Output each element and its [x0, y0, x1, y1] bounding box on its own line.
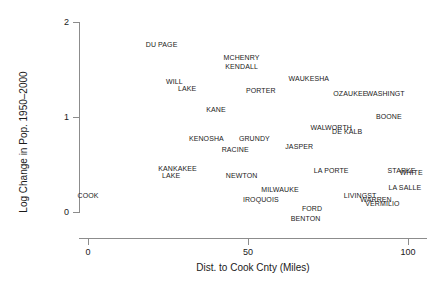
data-point-label: GRUNDY — [239, 135, 270, 143]
y-tick-label-1: 1 — [47, 112, 69, 122]
data-point-label: KANE — [206, 106, 225, 114]
y-tick-mark-0 — [73, 212, 79, 213]
x-tick-mark-50 — [248, 239, 249, 245]
data-point-label: VERMILIO — [365, 200, 399, 208]
y-axis-title: Log Change in Pop. 1950–2000 — [16, 0, 32, 284]
y-tick-label-0: 0 — [47, 207, 69, 217]
x-axis-title: Dist. to Cook Cnty (Miles) — [79, 262, 427, 273]
x-axis-line — [79, 238, 427, 239]
data-point-label: LAKE — [178, 85, 196, 93]
data-point-label: IROQUOIS — [243, 196, 279, 204]
x-tick-mark-0 — [88, 239, 89, 245]
x-tick-label-50: 50 — [228, 247, 268, 257]
data-point-label: BOONE — [376, 113, 402, 121]
y-tick-mark-2 — [73, 22, 79, 23]
plot-area: 2 1 0 0 50 100 COOKDU PAGEMCHENRYKENDALL… — [0, 0, 427, 284]
y-axis-line — [79, 22, 80, 213]
data-point-label: WASHINGT — [366, 90, 404, 98]
data-point-label: WAUKESHA — [288, 75, 329, 83]
data-point-label: LAKE — [162, 172, 180, 180]
data-point-label: WHITE — [400, 169, 423, 177]
data-point-label: BENTON — [291, 215, 321, 223]
data-point-label: FORD — [302, 205, 322, 213]
x-tick-label-0: 0 — [68, 247, 108, 257]
y-tick-label-2: 2 — [47, 17, 69, 27]
data-point-label: LA SALLE — [388, 184, 421, 192]
data-point-label: DE KALB — [332, 128, 362, 136]
data-point-label: KENOSHA — [189, 135, 224, 143]
y-tick-mark-1 — [73, 117, 79, 118]
data-point-label: JASPER — [285, 143, 313, 151]
data-point-label: OZAUKEE — [333, 90, 367, 98]
data-point-label: MILWAUKE — [261, 186, 298, 194]
data-point-label: LA PORTE — [314, 167, 349, 175]
x-tick-label-100: 100 — [388, 247, 427, 257]
data-point-label: RACINE — [222, 146, 249, 154]
data-point-label: KENDALL — [225, 63, 258, 71]
scatter-plot-figure: 2 1 0 0 50 100 COOKDU PAGEMCHENRYKENDALL… — [0, 0, 427, 284]
x-tick-mark-100 — [408, 239, 409, 245]
data-point-label: MCHENRY — [224, 54, 260, 62]
data-point-label: DU PAGE — [146, 41, 178, 49]
data-point-label: COOK — [77, 192, 98, 200]
data-point-label: NEWTON — [226, 172, 258, 180]
data-point-label: PORTER — [246, 87, 276, 95]
